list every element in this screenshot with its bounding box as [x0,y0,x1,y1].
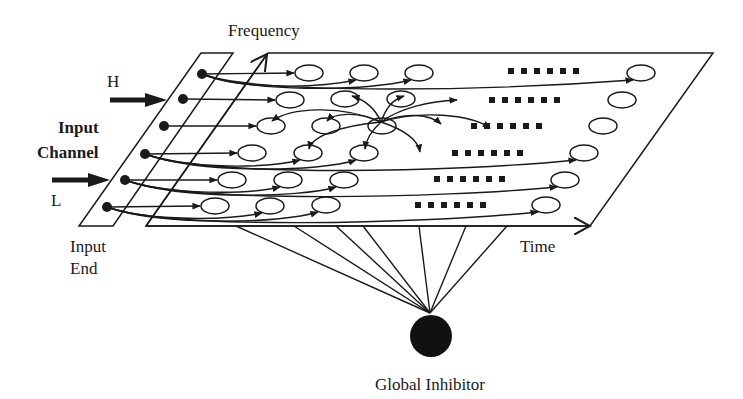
oscillator [238,145,266,161]
oscillator [295,65,323,81]
oscillator [257,118,285,134]
oscillator [201,198,229,214]
input-end-label-line1: Input [70,237,106,256]
oscillator [551,172,579,188]
input-node [140,149,150,159]
frequency-label: Frequency [228,21,300,40]
oscillator [589,118,617,134]
input-node [159,121,169,131]
oscillator [312,118,340,134]
oscillator [350,65,378,81]
inhibitor-connections [236,226,507,313]
oscillator [256,198,284,214]
oscillator [312,197,340,213]
ellipsis-row-4 [452,150,523,156]
oscillator [627,65,655,81]
oscillator [532,197,560,213]
ellipsis-row-6 [415,202,486,208]
input-node [178,94,188,104]
ellipsis-row-1 [508,68,579,74]
oscillator [405,65,433,81]
input-node [120,175,130,185]
oscillator [330,172,358,188]
input-channel-label-line2: Channel [37,143,99,162]
input-arrow-low [52,173,110,187]
input-node [197,69,207,79]
global-inhibitor-node [410,315,452,357]
low-label: L [51,191,61,210]
time-label: Time [520,237,555,256]
oscillator [331,91,359,107]
input-channel-label-line1: Input [58,118,99,137]
ellipsis-row-2 [489,97,560,103]
input-arrow-high [110,93,167,107]
global-inhibitor-label: Global Inhibitor [375,375,485,394]
oscillator [294,145,322,161]
input-node [102,202,112,212]
oscillator [218,172,246,188]
oscillator [350,145,378,161]
input-end-label-line2: End [70,259,98,278]
high-label: H [107,72,119,91]
oscillator [276,92,304,108]
oscillator [570,145,598,161]
oscillator [274,172,302,188]
diagram-canvas: Frequency Time H L Input Channel Input E… [0,0,743,399]
oscillator [608,92,636,108]
ellipsis-row-5 [434,176,505,182]
oscillators [201,65,655,214]
